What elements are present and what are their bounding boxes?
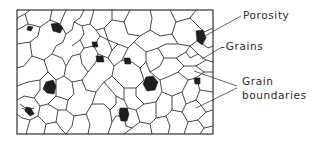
grains-label: -Grains [221,40,263,52]
porosity-label: Porosity [243,9,289,21]
pore [124,58,131,64]
microstructure-diagram: Porosity -Grains Grain boundaries [0,0,321,145]
grain-boundaries-label-line2: boundaries [242,89,307,101]
pore [194,78,200,84]
pore [96,56,104,62]
pore [119,108,129,121]
grain-boundaries-label-line1: Grain [242,75,273,87]
pore [92,42,98,47]
